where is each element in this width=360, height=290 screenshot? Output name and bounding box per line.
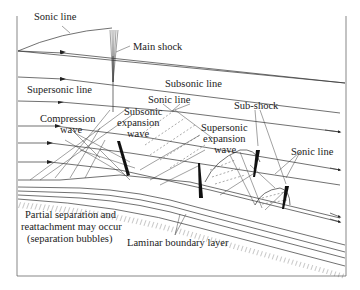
- label-separation-3: (separation bubbles): [27, 233, 113, 245]
- label-supersonic-expansion-2: expansion: [203, 133, 246, 144]
- label-laminar-boundary-layer: Laminar boundary layer: [127, 237, 229, 248]
- label-subsonic-expansion-3: wave: [127, 128, 149, 139]
- label-sonic-line-mid: Sonic line: [148, 94, 191, 105]
- label-sonic-line-right: Sonic line: [291, 146, 334, 157]
- label-separation: Partial separation and: [25, 209, 117, 220]
- main-shock: [110, 30, 130, 112]
- label-compression-wave-2: wave: [60, 124, 82, 135]
- streamlines: [18, 50, 345, 222]
- label-separation-2: reattachment may occur: [21, 221, 122, 232]
- label-sonic-line-top: Sonic line: [34, 11, 77, 22]
- label-subsonic-expansion-2: expansion: [117, 117, 160, 128]
- label-subsonic-line: Subsonic line: [165, 78, 222, 89]
- shock-structure-diagram: Sonic line Main shock Subsonic line Supe…: [0, 0, 360, 290]
- label-subsonic-expansion: Subsonic: [124, 106, 163, 117]
- label-compression-wave: Compression: [40, 113, 96, 124]
- label-supersonic-expansion-3: wave: [214, 144, 236, 155]
- label-sub-shock: Sub-shock: [234, 100, 279, 111]
- label-supersonic-line: Supersonic line: [27, 84, 92, 95]
- label-supersonic-expansion: Supersonic: [201, 122, 248, 133]
- sonic-line-top: [18, 28, 112, 51]
- label-main-shock: Main shock: [133, 41, 183, 52]
